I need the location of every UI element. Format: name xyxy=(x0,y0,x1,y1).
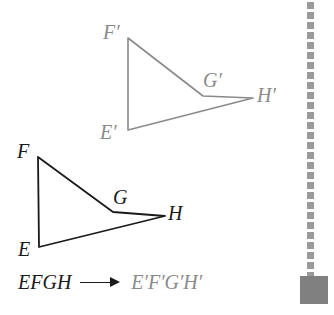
rail-dot xyxy=(307,102,314,109)
rail-dot xyxy=(307,12,314,19)
rail-dot xyxy=(307,132,314,139)
rail-dot xyxy=(307,162,314,169)
rail-dot xyxy=(307,22,314,29)
vertex-label-preimage-0: E xyxy=(18,239,30,259)
rail-dot xyxy=(307,2,314,9)
arrow-shaft xyxy=(80,282,114,284)
vertex-label-preimage-2: G xyxy=(113,187,127,207)
mapping-source-label: EFGH xyxy=(18,271,71,294)
geometry-figure xyxy=(0,0,334,315)
vertex-label-image-1: F′ xyxy=(103,22,120,42)
rail-dot xyxy=(307,42,314,49)
rail-dot xyxy=(307,92,314,99)
arrow-right-icon xyxy=(80,276,122,290)
rail-dot xyxy=(307,222,314,229)
mapping-notation: EFGH E′F′G′H′ xyxy=(18,271,202,294)
rail-dot xyxy=(307,112,314,119)
mapping-destination-label: E′F′G′H′ xyxy=(131,271,202,294)
rail-dot xyxy=(307,172,314,179)
rail-dot xyxy=(307,122,314,129)
preimage-quadrilateral-EFGH xyxy=(38,157,165,247)
dotted-rail[interactable] xyxy=(307,0,314,315)
rail-dot xyxy=(307,262,314,269)
rail-dot xyxy=(307,202,314,209)
rail-dot xyxy=(307,62,314,69)
vertex-label-image-0: E′ xyxy=(100,122,117,142)
rail-dot xyxy=(307,192,314,199)
rail-dot xyxy=(307,32,314,39)
rail-dot xyxy=(307,152,314,159)
rail-dot xyxy=(307,72,314,79)
image-quadrilateral-EFGH-prime xyxy=(128,38,253,130)
rail-dot xyxy=(307,252,314,259)
rail-dot xyxy=(307,52,314,59)
rail-dot xyxy=(307,182,314,189)
rail-dot xyxy=(307,142,314,149)
diagram-canvas: E′F′G′H′EFGH EFGH E′F′G′H′ xyxy=(0,0,334,315)
rail-dot xyxy=(307,212,314,219)
arrow-head xyxy=(110,277,120,287)
vertex-label-preimage-3: H xyxy=(168,203,182,223)
vertex-label-preimage-1: F xyxy=(17,141,29,161)
rail-dot xyxy=(307,82,314,89)
rail-dot xyxy=(307,242,314,249)
vertex-label-image-3: H′ xyxy=(257,85,276,105)
vertex-label-image-2: G′ xyxy=(203,70,222,90)
rail-dot xyxy=(307,232,314,239)
corner-swatch[interactable] xyxy=(300,276,328,304)
